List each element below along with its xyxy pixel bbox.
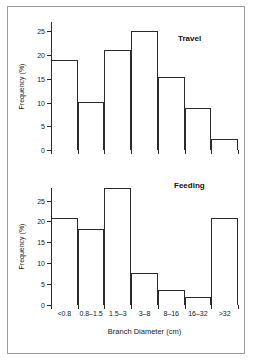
y-axis-tick	[47, 242, 51, 243]
plot-area-travel: 0510152025	[51, 22, 238, 150]
x-axis-tick	[51, 305, 52, 309]
x-axis-tick	[78, 150, 79, 154]
figure-histogram-pair: Frequency (%) Travel 0510152025 Frequenc…	[0, 0, 254, 364]
histogram-bar	[131, 31, 158, 150]
x-axis-category-label: 16–32	[188, 310, 207, 318]
x-axis-title: Branch Diameter (cm)	[51, 327, 238, 336]
histogram-bar	[185, 297, 212, 305]
y-axis-tick-label: 0	[41, 302, 45, 309]
bar-group-feeding	[51, 188, 238, 305]
x-axis-category-label: >32	[219, 310, 231, 318]
y-axis-tick-label: 10	[37, 99, 45, 106]
x-axis-tick	[211, 150, 212, 154]
x-axis-tick	[185, 150, 186, 154]
histogram-bar	[211, 139, 238, 150]
x-axis-tick	[131, 150, 132, 154]
y-axis-tick	[47, 126, 51, 127]
y-axis-tick	[47, 103, 51, 104]
x-axis-tick	[131, 305, 132, 309]
x-axis-tick	[211, 305, 212, 309]
y-axis-tick-label: 5	[41, 281, 45, 288]
histogram-bar	[104, 188, 131, 305]
y-axis-tick-label: 25	[37, 28, 45, 35]
bar-group-travel	[51, 22, 238, 150]
panel-travel: Frequency (%) Travel 0510152025	[0, 0, 254, 176]
y-axis-tick-label: 0	[41, 147, 45, 154]
y-axis-tick	[47, 79, 51, 80]
x-axis-category-label: 0.8–1.5	[79, 310, 102, 318]
y-axis-tick-label: 20	[37, 218, 45, 225]
histogram-bar	[158, 290, 185, 305]
x-axis-category-label: 8–16	[163, 310, 179, 318]
x-axis-tick	[185, 305, 186, 309]
x-axis-tick	[78, 305, 79, 309]
plot-area-feeding: <0.80.8–1.51.5–33–88–1616–32>32 05101520…	[51, 188, 238, 305]
x-axis-tick	[158, 305, 159, 309]
y-axis-tick-label: 10	[37, 260, 45, 267]
x-axis-category-label: 1.5–3	[109, 310, 127, 318]
histogram-bar	[158, 77, 185, 150]
y-axis-title-travel: Frequency (%)	[18, 63, 25, 109]
y-axis-tick-label: 15	[37, 75, 45, 82]
x-axis-category-label: <0.8	[57, 310, 71, 318]
y-axis-tick-label: 25	[37, 197, 45, 204]
panel-feeding: Frequency (%) Feeding <0.80.8–1.51.5–33–…	[0, 176, 254, 364]
y-axis-tick-label: 20	[37, 52, 45, 59]
y-axis-tick	[47, 55, 51, 56]
histogram-bar	[78, 229, 105, 305]
x-axis-tick	[104, 150, 105, 154]
y-axis-tick	[47, 263, 51, 264]
y-axis-tick	[47, 31, 51, 32]
x-axis-category-label: 3–8	[139, 310, 151, 318]
histogram-bar	[211, 218, 238, 305]
y-axis-tick	[47, 221, 51, 222]
histogram-bar	[104, 50, 131, 150]
x-axis-tick	[104, 305, 105, 309]
y-axis-tick	[47, 284, 51, 285]
y-axis-tick-label: 5	[41, 123, 45, 130]
histogram-bar	[131, 273, 158, 305]
y-axis-title-feeding: Frequency (%)	[18, 224, 25, 270]
histogram-bar	[185, 108, 212, 150]
histogram-bar	[78, 102, 105, 150]
histogram-bar	[51, 218, 78, 305]
x-axis-tick	[238, 305, 239, 309]
x-axis-tick	[51, 150, 52, 154]
y-axis-tick-label: 15	[37, 239, 45, 246]
y-axis-tick	[47, 201, 51, 202]
x-axis-tick	[238, 150, 239, 154]
x-axis-tick-labels: <0.80.8–1.51.5–33–88–1616–32>32	[51, 310, 238, 321]
x-axis-tick	[158, 150, 159, 154]
histogram-bar	[51, 60, 78, 150]
